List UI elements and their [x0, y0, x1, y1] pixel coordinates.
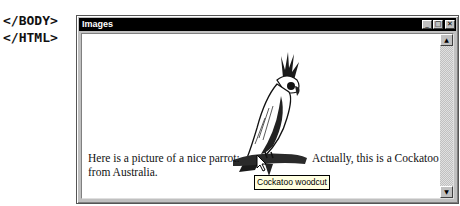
text-parrot-caption: Here is a picture of a nice parrot:: [88, 152, 240, 164]
close-icon: ✕: [447, 20, 453, 28]
text-from-australia: from Australia.: [88, 166, 158, 178]
scroll-up-button[interactable]: ▲: [440, 34, 453, 46]
scroll-down-button[interactable]: ▼: [440, 186, 453, 198]
code-line-html-close: </HTML>: [3, 30, 58, 45]
mouse-cursor-icon: [256, 154, 268, 172]
images-window: Images _ □ ✕: [76, 15, 459, 204]
window-title: Images: [82, 18, 113, 31]
minimize-icon: _: [425, 20, 429, 28]
arrow-up-icon: ▲: [444, 36, 449, 43]
minimize-button[interactable]: _: [422, 20, 432, 29]
vertical-scrollbar[interactable]: ▲ ▼: [440, 34, 453, 198]
maximize-icon: □: [435, 20, 442, 28]
title-bar[interactable]: Images _ □ ✕: [79, 18, 456, 31]
arrow-down-icon: ▼: [444, 188, 449, 195]
maximize-button[interactable]: □: [433, 20, 443, 29]
close-button[interactable]: ✕: [445, 20, 455, 29]
image-tooltip: Cockatoo woodcut: [254, 175, 330, 190]
document-view: Here is a picture of a nice parrot: Actu…: [81, 33, 454, 199]
code-line-body-close: </BODY>: [3, 13, 58, 28]
text-cockatoo-note: Actually, this is a Cockatoo: [312, 152, 439, 164]
